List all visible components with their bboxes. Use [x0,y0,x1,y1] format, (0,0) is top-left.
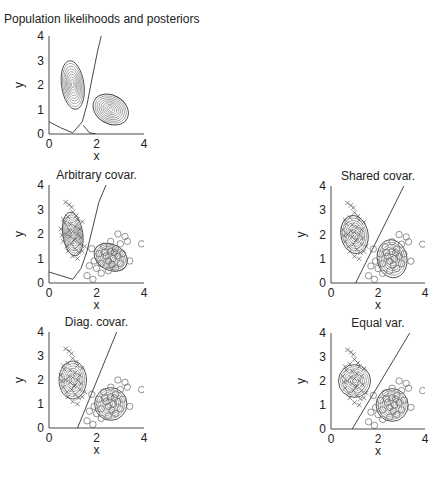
x-axis-label: x [94,443,100,457]
o-marker [84,418,90,424]
o-marker [86,408,92,414]
o-marker [84,272,90,278]
o-marker [112,410,118,416]
panel-title: Equal var. [351,316,404,330]
contour-class-x [70,229,76,239]
o-marker [93,265,99,271]
y-tick-label: 1 [319,252,326,266]
contour-class-o [103,102,119,116]
x-tick-label: 4 [141,431,148,445]
x-axis-label: x [94,149,100,163]
o-marker [98,270,104,276]
panel-shared: Shared covar.01234024xy [294,169,429,312]
o-marker [127,403,133,409]
o-marker [408,404,414,410]
x-marker [80,220,84,224]
y-tick-label: 4 [319,179,326,193]
o-marker [122,233,128,239]
o-marker [86,263,92,269]
figure: Population likelihoods and posteriors 01… [0,0,448,480]
contour-class-o [92,240,130,275]
y-tick-label: 0 [37,276,44,290]
o-marker [394,411,400,417]
o-marker [394,265,400,271]
o-marker [368,409,374,415]
x-marker [358,397,362,401]
y-tick-label: 1 [37,103,44,117]
o-marker [371,422,377,428]
y-tick-label: 4 [319,326,326,340]
y-tick-label: 2 [37,78,44,92]
y-tick-label: 1 [37,252,44,266]
x-marker [82,244,86,248]
y-tick-label: 0 [319,276,326,290]
x-marker [361,382,365,386]
x-tick-label: 4 [141,137,148,151]
o-marker [371,276,377,282]
o-marker [138,386,144,392]
panel-population: 01234024xy [12,29,148,163]
y-tick-label: 4 [37,325,44,339]
o-marker [368,263,374,269]
y-tick-label: 3 [319,203,326,217]
y-tick-label: 0 [37,421,44,435]
x-marker [63,347,67,351]
x-tick-label: 0 [46,286,53,300]
x-marker [75,402,79,406]
x-marker [362,396,366,400]
o-marker [380,270,386,276]
axes [49,36,144,134]
o-marker [398,407,404,413]
contour-class-o [90,90,131,128]
x-marker [364,391,368,395]
o-marker [365,273,371,279]
contour-class-x [350,229,358,240]
y-axis-label: y [12,231,26,237]
x-tick-label: 4 [422,286,429,300]
x-marker [359,388,363,392]
x-marker [357,218,361,222]
x-tick-label: 0 [328,286,335,300]
o-marker [117,406,123,412]
plot-canvas: 01234024xyArbitrary covar.01234024xyShar… [0,0,448,480]
panel-title: Diag. covar. [65,315,128,329]
o-marker [396,378,402,384]
x-marker [343,386,347,390]
y-tick-label: 1 [37,397,44,411]
y-axis-label: y [294,378,308,384]
x-marker [352,230,356,234]
panel-diagonal: Diag. covar.01234024xy [12,315,148,457]
contour-class-x [71,82,74,88]
decision-boundary [83,125,96,134]
x-marker [352,254,356,258]
panel-title: Shared covar. [341,169,415,183]
x-axis-label: x [375,298,381,312]
panel-arbitrary: Arbitrary covar.01234024xy [12,168,148,312]
o-marker [115,377,121,383]
x-marker [362,220,366,224]
y-tick-label: 3 [319,350,326,364]
o-marker [90,421,96,427]
y-axis-label: y [12,377,26,383]
o-marker [138,241,144,247]
y-tick-label: 3 [37,203,44,217]
y-tick-label: 4 [37,178,44,192]
y-tick-label: 3 [37,54,44,68]
contour-class-o [93,93,129,127]
o-marker [398,241,404,247]
y-tick-label: 1 [319,398,326,412]
y-tick-label: 4 [37,29,44,43]
o-marker [396,231,402,237]
x-marker [74,213,78,217]
x-tick-label: 0 [328,432,335,446]
o-marker [98,260,104,266]
y-tick-label: 2 [37,227,44,241]
panel-title: Arbitrary covar. [56,168,137,182]
x-marker [61,363,65,367]
o-marker [419,241,425,247]
y-tick-label: 3 [37,349,44,363]
contour-class-x [69,375,76,384]
x-marker [78,387,82,391]
o-marker [98,406,104,412]
x-marker [71,399,75,403]
